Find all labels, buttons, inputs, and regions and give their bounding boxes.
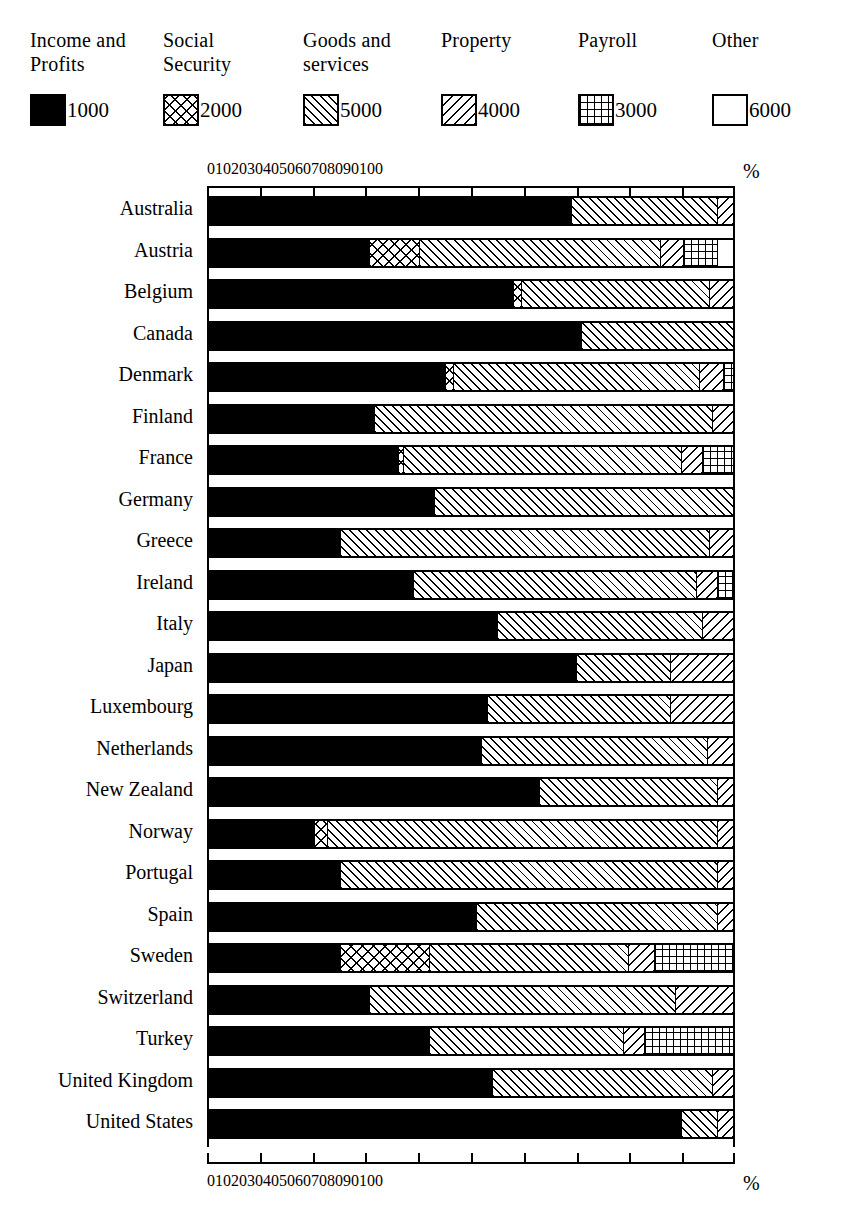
bar-segment-5000 [340, 530, 709, 556]
bar-segment-5000 [476, 904, 717, 930]
legend-label: Goods and services [303, 28, 391, 76]
bar-row: Denmark [207, 356, 735, 398]
bar-segment-5000 [539, 779, 717, 805]
axis-tick-mark [629, 1153, 631, 1162]
bar-segment-5000 [403, 447, 681, 473]
category-label-text: Japan [147, 654, 193, 677]
bar-segment-2000 [445, 364, 453, 390]
legend-code: 3000 [615, 98, 657, 123]
axis-tick-mark [365, 1153, 367, 1162]
bar-row: Belgium [207, 273, 735, 315]
axis-tick-label: 50 [279, 160, 295, 177]
bar-segment-4000 [709, 281, 733, 307]
bar-segment-1000 [209, 696, 487, 722]
axis-tick-label: 10 [215, 160, 231, 177]
axis-tick-labels: 0102030405060708090100% [207, 160, 735, 186]
bar-segment-4000 [712, 406, 733, 432]
bar-segment-2000 [340, 945, 429, 971]
bar-segment-1000 [209, 987, 369, 1013]
bar-segment-1000 [209, 406, 374, 432]
bar-segment-5000 [374, 406, 712, 432]
bar-segment-5000 [413, 572, 696, 598]
bar-segment-1000 [209, 904, 476, 930]
axis-tick-label: 40 [263, 160, 279, 177]
bar-segment-5000 [581, 323, 733, 349]
category-label-text: Austria [134, 239, 193, 262]
category-label-text: United Kingdom [58, 1069, 193, 1092]
category-label-text: Australia [120, 197, 193, 220]
bar-segment-3000 [654, 945, 733, 971]
bar-row: Turkey [207, 1020, 735, 1062]
bar-row: Switzerland [207, 979, 735, 1021]
bar-segment-1000 [209, 821, 314, 847]
category-label-text: Netherlands [96, 737, 193, 760]
category-label-text: Sweden [130, 944, 193, 967]
category-label-text: France [139, 446, 193, 469]
bar-row: Canada [207, 315, 735, 357]
legend-entry-other: 6000 [712, 94, 791, 126]
bar-segment-5000 [429, 1028, 623, 1054]
bar-segment-1000 [209, 198, 571, 224]
legend-entry-property: 4000 [441, 94, 520, 126]
axis-tick-label: 90 [343, 160, 359, 177]
bar-segment-1000 [209, 240, 369, 266]
bar-row: Netherlands [207, 730, 735, 772]
bar-segment-1000 [209, 323, 581, 349]
bar-segment-1000 [209, 945, 340, 971]
bar-segment-1000 [209, 779, 539, 805]
bar-segment-5000 [327, 821, 717, 847]
axis-tick-label: 100 [359, 1172, 383, 1189]
bar-segment-4000 [699, 364, 723, 390]
bar-row: Australia [207, 190, 735, 232]
bar-segment-5000 [369, 987, 676, 1013]
bar-row: Sweden [207, 937, 735, 979]
bar-row: Spain [207, 896, 735, 938]
legend-swatch-solid-black-icon [30, 94, 66, 126]
category-label-text: Denmark [119, 363, 193, 386]
bar-row: United States [207, 1103, 735, 1145]
stacked-bar [207, 362, 735, 392]
category-label-text: Portugal [125, 861, 193, 884]
bar-segment-5000 [521, 281, 710, 307]
bar-segment-1000 [209, 1070, 492, 1096]
axis-tick-label: 30 [247, 160, 263, 177]
category-label-text: Turkey [136, 1027, 193, 1050]
legend-swatch-grid-icon [578, 94, 614, 126]
bar-row: France [207, 439, 735, 481]
bar-segment-3000 [717, 572, 733, 598]
legend-title-property: Property [441, 28, 511, 52]
bar-segment-3000 [683, 240, 717, 266]
stacked-bar [207, 570, 735, 600]
bar-segment-5000 [340, 862, 717, 888]
bar-segment-5000 [419, 240, 660, 266]
bar-segment-5000 [497, 613, 701, 639]
axis-tick-label: 40 [263, 1172, 279, 1189]
legend-swatch-diagonal-left-icon [303, 94, 339, 126]
category-label-text: Spain [147, 903, 193, 926]
bar-row: Finland [207, 398, 735, 440]
bar-segment-1000 [209, 489, 434, 515]
axis-tick-label: 10 [215, 1172, 231, 1189]
legend-code: 1000 [67, 98, 109, 123]
stacked-bar [207, 943, 735, 973]
stacked-bar [207, 985, 735, 1015]
axis-tick-label: 80 [327, 160, 343, 177]
bar-segment-4000 [717, 198, 733, 224]
bar-segment-4000 [675, 987, 733, 1013]
axis-line [207, 186, 735, 188]
bar-segment-4000 [628, 945, 654, 971]
bar-segment-4000 [712, 1070, 733, 1096]
bar-segment-1000 [209, 1028, 429, 1054]
legend-label: Other [712, 28, 759, 52]
bar-segment-4000 [696, 572, 717, 598]
legend-swatch-cross-hatch-icon [163, 94, 199, 126]
bar-segment-4000 [717, 779, 733, 805]
stacked-bar [207, 487, 735, 517]
axis-tick-label: 90 [343, 1172, 359, 1189]
bar-segment-2000 [314, 821, 327, 847]
bar-row: New Zealand [207, 771, 735, 813]
bar-segment-1000 [209, 281, 513, 307]
legend-entry-goods-and-services: 5000 [303, 94, 382, 126]
category-label-text: Ireland [136, 571, 193, 594]
bar-row: Norway [207, 813, 735, 855]
